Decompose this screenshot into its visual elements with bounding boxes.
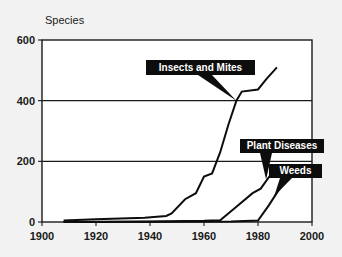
chart-figure: 0200400600 190019201940196019802000 Spec… [0, 0, 342, 257]
x-tick-label-1900: 1900 [30, 230, 54, 242]
x-tick-label-2000: 2000 [300, 230, 324, 242]
y-tick-label-600: 600 [17, 34, 35, 46]
species-line-chart: 0200400600 190019201940196019802000 Spec… [0, 0, 342, 257]
y-tick-label-0: 0 [29, 216, 35, 228]
x-tick-label-1980: 1980 [246, 230, 270, 242]
x-tick-label-1940: 1940 [138, 230, 162, 242]
x-tick-label-1960: 1960 [192, 230, 216, 242]
y-axis-title: Species [45, 14, 85, 26]
annotation-weeds-label: Weeds [279, 165, 311, 176]
y-tick-label-200: 200 [17, 155, 35, 167]
annotation-insects-and-mites-label: Insects and Mites [159, 62, 243, 73]
x-tick-label-1920: 1920 [84, 230, 108, 242]
annotation-plant-diseases-label: Plant Diseases [247, 140, 318, 151]
y-tick-label-400: 400 [17, 95, 35, 107]
